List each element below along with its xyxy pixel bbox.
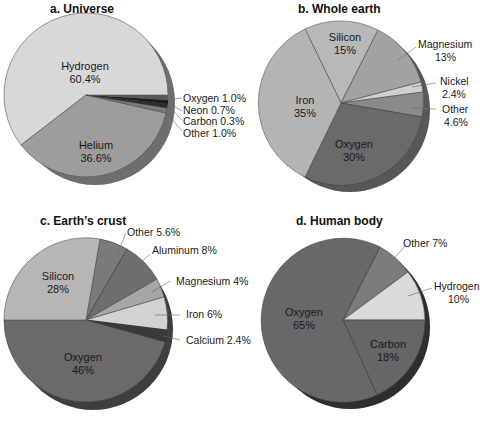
label-helium-pct: 36.6%: [80, 152, 111, 164]
label-silicon-pct: 28%: [47, 283, 69, 295]
label-other-pct: 4.6%: [444, 116, 468, 128]
label-silicon-pct: 15%: [334, 44, 356, 56]
label-silicon: Silicon: [42, 270, 74, 282]
label-calcium: Calcium 2.4%: [186, 334, 251, 346]
label-iron-pct: 35%: [294, 107, 316, 119]
label-carbon: Carbon: [370, 338, 406, 350]
label-hydrogen-pct: 60.4%: [69, 73, 100, 85]
label-carbon: Carbon 0.3%: [183, 115, 244, 127]
chart-title-whole-earth: b. Whole earth: [298, 2, 381, 16]
label-magnesium-pct: 13%: [435, 51, 456, 63]
label-oxygen: Oxygen: [285, 306, 323, 318]
pie-charts-figure: a. Universe Hydrogen 60.4% Helium 36.6% …: [0, 0, 483, 427]
label-iron: Iron 6%: [186, 308, 222, 320]
label-oxygen: Oxygen: [64, 351, 102, 363]
label-hydrogen: Hydrogen: [61, 60, 109, 72]
label-other: Other 7%: [403, 237, 447, 249]
pie-earths-crust: c. Earth’s crust Silicon 28% Oxygen 46% …: [4, 214, 251, 410]
pie-universe: a. Universe Hydrogen 60.4% Helium 36.6% …: [4, 2, 246, 185]
label-oxygen-pct: 65%: [293, 319, 315, 331]
label-nickel-pct: 2.4%: [442, 88, 466, 100]
chart-title-earths-crust: c. Earth’s crust: [40, 214, 126, 228]
label-other: Other 5.6%: [127, 226, 180, 238]
label-oxygen: Oxygen 1.0%: [183, 92, 246, 104]
label-other: Other 1.0%: [183, 127, 236, 139]
label-aluminum: Aluminum 8%: [152, 244, 217, 256]
label-carbon-pct: 18%: [377, 351, 399, 363]
label-oxygen-pct: 46%: [72, 364, 94, 376]
label-helium: Helium: [79, 139, 113, 151]
chart-title-universe: a. Universe: [50, 2, 114, 16]
label-iron: Iron: [296, 94, 315, 106]
label-magnesium: Magnesium: [418, 38, 473, 50]
pie-human-body: d. Human body Oxygen 65% Carbon 18% Othe…: [261, 214, 479, 409]
label-magnesium: Magnesium 4%: [176, 275, 248, 287]
label-silicon: Silicon: [329, 31, 361, 43]
label-oxygen: Oxygen: [335, 138, 373, 150]
pie-whole-earth: b. Whole earth Silicon 15% Iron 35% Oxyg…: [258, 2, 472, 192]
label-nickel: Nickel: [440, 75, 469, 87]
label-other: Other: [442, 103, 469, 115]
label-hydrogen: Hydrogen: [434, 280, 480, 292]
chart-title-human-body: d. Human body: [296, 214, 383, 228]
label-hydrogen-pct: 10%: [448, 293, 469, 305]
label-oxygen-pct: 30%: [343, 151, 365, 163]
